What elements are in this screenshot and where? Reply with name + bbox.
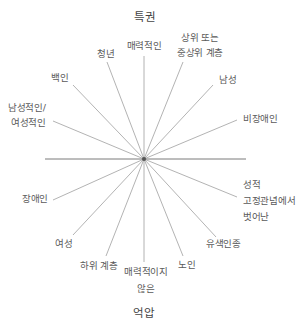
label-young: 청년 bbox=[90, 46, 122, 62]
label-unattractive-1: 매력적이지 bbox=[119, 264, 173, 280]
label-upper-class-2: 중상위 계층 bbox=[170, 45, 230, 61]
spoke-elderly bbox=[144, 159, 183, 256]
label-gender-nonconforming-3: 벗어난 bbox=[243, 209, 269, 225]
spoke-upper-class bbox=[144, 62, 183, 159]
spoke-female bbox=[73, 159, 144, 235]
label-gender-normative-2: 여성적인 bbox=[11, 115, 46, 131]
spoke-male bbox=[144, 85, 213, 159]
label-lower-class: 하위 계층 bbox=[80, 258, 118, 274]
label-male: 남성 bbox=[219, 72, 236, 88]
spoke-people-of-color bbox=[144, 159, 216, 237]
label-non-disabled: 비장애인 bbox=[243, 111, 278, 127]
label-white: 백인 bbox=[51, 70, 68, 86]
spoke-non-disabled bbox=[144, 120, 237, 159]
spoke-young bbox=[107, 62, 144, 159]
label-unattractive-2: 않은 bbox=[119, 281, 173, 297]
spoke-white bbox=[73, 85, 144, 159]
label-female: 여성 bbox=[55, 236, 72, 252]
label-gender-nonconforming-1: 성적 bbox=[243, 177, 260, 193]
label-elderly: 노인 bbox=[178, 257, 195, 273]
label-upper-class-1: 상위 또는 bbox=[170, 30, 230, 46]
axis-bottom-oppression: 억압 bbox=[122, 304, 166, 320]
spoke-gender-normative bbox=[53, 121, 144, 159]
label-gender-nonconforming-2: 고정관념에서 bbox=[243, 193, 295, 209]
spoke-gender-nonconforming bbox=[144, 159, 237, 197]
center-point bbox=[142, 157, 146, 161]
axis-top-privilege: 특권 bbox=[124, 8, 166, 24]
label-attractive: 매력적인 bbox=[119, 38, 169, 54]
label-people-of-color: 유색인종 bbox=[206, 236, 241, 252]
label-disabled: 장애인 bbox=[22, 191, 48, 207]
label-gender-normative-1: 남성적인/ bbox=[8, 100, 46, 116]
